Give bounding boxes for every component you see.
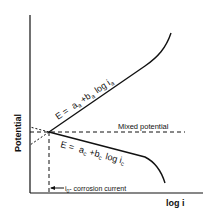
y-axis-label: Potential (13, 114, 23, 152)
anodic-extrapolation (30, 132, 49, 145)
arrow-head-icon (50, 186, 55, 190)
anodic-equation: E = aa +ba log ia (54, 75, 117, 123)
corrosion-current-label: i0- corrosion current (65, 185, 126, 194)
x-axis-label: log i (166, 198, 185, 208)
cathodic-extrapolation (30, 127, 49, 132)
svg-text:E = aa +ba l: E = aa +ba log ia (54, 75, 117, 123)
evans-diagram: Potential log i E = aa +ba log ia E = ac… (0, 0, 210, 211)
mixed-potential-label: Mixed potential (118, 122, 169, 131)
